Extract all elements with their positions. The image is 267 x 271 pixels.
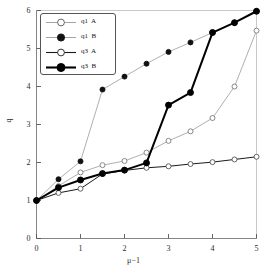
x-tick-label: 3 bbox=[159, 244, 179, 253]
x-tick-label: 4 bbox=[203, 244, 223, 253]
y-tick-label: 1 bbox=[15, 196, 31, 205]
x-tick-label: 2 bbox=[115, 244, 135, 253]
y-tick-label: 0 bbox=[15, 234, 31, 243]
y-tick-label: 3 bbox=[15, 120, 31, 129]
legend-label: q1 A bbox=[81, 17, 96, 25]
legend-label: q3 B bbox=[81, 62, 96, 70]
legend-entry-q3-b: q3 B bbox=[41, 60, 117, 75]
chart-figure: q μ−1 0123456012345 q1 A q1 B q3 A bbox=[0, 0, 267, 271]
legend-entry-q1-a: q1 A bbox=[41, 15, 117, 30]
x-tick-label: 5 bbox=[247, 244, 267, 253]
x-tick-label: 1 bbox=[71, 244, 91, 253]
y-tick-label: 4 bbox=[15, 82, 31, 91]
legend-entry-q1-b: q1 B bbox=[41, 30, 117, 45]
y-tick-label: 6 bbox=[15, 6, 31, 15]
y-axis-title: q bbox=[4, 109, 13, 133]
legend-swatch-filled-circle-dark bbox=[44, 60, 78, 75]
legend-label: q3 A bbox=[81, 47, 96, 55]
chart-legend: q1 A q1 B q3 A q3 B bbox=[40, 13, 116, 75]
legend-swatch-filled-circle-light bbox=[44, 30, 78, 45]
y-tick-label: 5 bbox=[15, 44, 31, 53]
legend-label: q1 B bbox=[81, 32, 96, 40]
legend-swatch-open-circle-light bbox=[44, 15, 78, 30]
legend-swatch-open-circle-dark bbox=[44, 45, 78, 60]
y-tick-label: 2 bbox=[15, 158, 31, 167]
legend-entry-q3-a: q3 A bbox=[41, 45, 117, 60]
x-tick-label: 0 bbox=[27, 244, 47, 253]
x-axis-title: μ−1 bbox=[0, 256, 267, 265]
